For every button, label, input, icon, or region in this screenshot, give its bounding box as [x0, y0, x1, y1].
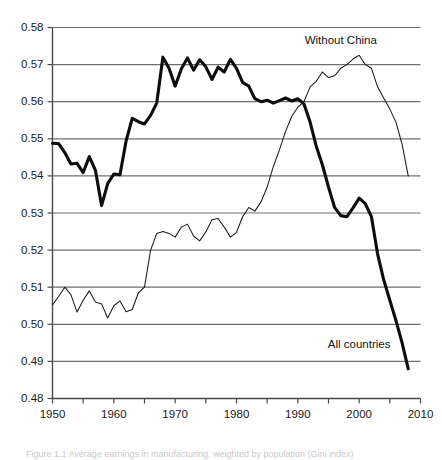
figure-caption: Figure 1.1 Average earnings in manufactu… — [26, 449, 426, 460]
x-tick-label: 2010 — [408, 408, 434, 420]
y-tick-label: 0.53 — [21, 207, 43, 219]
gridlines-group — [53, 28, 421, 362]
x-tick-label: 1990 — [285, 408, 311, 420]
y-tick-label: 0.50 — [21, 318, 43, 330]
y-tick-label: 0.48 — [21, 392, 43, 404]
y-tickmarks-group — [48, 28, 53, 399]
without-china-label: Without China — [305, 34, 378, 46]
y-tick-labels-group: 0.480.490.500.510.520.530.540.550.560.57… — [21, 21, 44, 404]
x-tick-label: 1980 — [224, 408, 250, 420]
x-tickmarks-group — [53, 399, 421, 404]
x-tick-label: 1970 — [162, 408, 188, 420]
y-tick-label: 0.54 — [21, 169, 44, 181]
x-tick-label: 2000 — [346, 408, 372, 420]
y-tick-label: 0.49 — [21, 355, 43, 367]
y-tick-label: 0.57 — [21, 58, 43, 70]
y-tick-label: 0.58 — [21, 21, 43, 33]
y-tick-label: 0.55 — [21, 132, 43, 144]
x-tick-labels-group: 1950196019701980199020002010 — [40, 408, 434, 420]
x-tick-label: 1950 — [40, 408, 66, 420]
x-tick-label: 1960 — [101, 408, 127, 420]
y-tick-label: 0.56 — [21, 95, 43, 107]
y-tick-label: 0.51 — [21, 281, 43, 293]
y-tick-label: 0.52 — [21, 244, 43, 256]
all-countries-label: All countries — [328, 338, 391, 350]
series-annotations-group: Without ChinaAll countries — [305, 34, 391, 350]
series-lines-group — [53, 55, 409, 369]
